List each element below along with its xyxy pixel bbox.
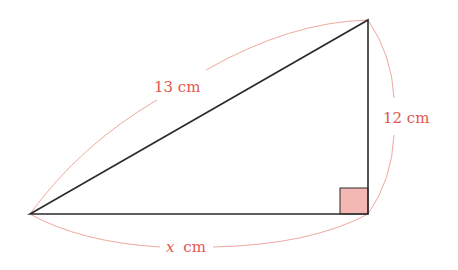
hypotenuse-arc-upper [206, 20, 368, 70]
triangle-diagram: 13 cm 12 cm x cm [0, 0, 458, 270]
horizontal-arc-left [30, 214, 160, 247]
horizontal-leg-variable: x [166, 238, 175, 256]
horizontal-arc-right [213, 214, 368, 247]
hypotenuse-label: 13 cm [154, 78, 200, 96]
vertical-arc-upper [368, 20, 394, 98]
dimension-arcs [30, 20, 394, 247]
vertical-arc-lower [368, 135, 394, 214]
horizontal-leg-unit: cm [183, 238, 206, 256]
right-angle-marker [340, 188, 368, 214]
hypotenuse-arc-lower [30, 100, 157, 214]
vertical-leg-label: 12 cm [383, 109, 429, 127]
horizontal-leg-label: x cm [166, 238, 206, 256]
triangle [30, 20, 368, 214]
